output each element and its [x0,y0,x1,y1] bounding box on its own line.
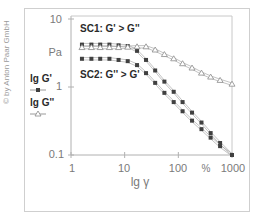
rheology-chart: 10 1 0.1 Pa 1 10 100 1000 % lg γ SC1: G'… [0,0,265,219]
data-point-filled [172,100,176,104]
legend-filled-square-icon [36,88,40,92]
x-unit: % [202,163,211,174]
data-series [79,43,235,157]
y-tick-10: 10 [50,13,62,25]
legend-g-prime-label: lg G' [30,73,52,84]
data-point-filled [181,100,185,104]
data-point-filled [117,58,121,62]
data-point-filled [209,136,213,140]
data-point-filled [162,80,166,84]
data-point-filled [80,57,84,61]
data-point-filled [107,57,111,61]
data-point-open [229,81,235,86]
data-point-filled [162,91,166,95]
axis-ticks [68,19,232,158]
data-point-filled [172,90,176,94]
data-point-open [88,45,94,50]
data-point-filled [230,153,234,157]
data-point-filled [153,68,157,72]
data-point-filled [190,111,194,115]
data-point-filled [181,109,185,113]
data-point-filled [153,81,157,85]
data-point-filled [89,57,93,61]
data-point-filled [144,58,148,62]
data-point-open [116,45,122,50]
data-point-open [106,45,112,50]
y-unit: Pa [49,46,63,58]
data-point-filled [218,144,222,148]
data-point-open [134,44,140,49]
x-tick-100: 100 [169,162,187,174]
data-point-filled [209,131,213,135]
data-point-filled [190,119,194,123]
y-tick-1: 1 [56,80,62,92]
x-tick-1000: 1000 [221,162,245,174]
annotation-sc1: SC1: G' > G'' [80,23,140,34]
data-point-filled [199,127,203,131]
data-point-filled [135,63,139,67]
data-point-open [97,45,103,50]
data-point-filled [144,71,148,75]
x-axis-label: lg γ [131,175,150,189]
data-point-open [79,45,85,50]
x-tick-1: 1 [69,162,75,174]
data-point-filled [135,49,139,53]
annotation-sc2: SC2: G'' > G' [80,69,140,80]
data-point-filled [98,57,102,61]
data-point-filled [126,59,130,63]
legend: lg G' lg G'' [30,73,54,116]
data-point-filled [199,121,203,125]
x-tick-10: 10 [118,162,130,174]
legend-g-double-prime-label: lg G'' [30,97,54,108]
y-tick-0-1: 0.1 [49,148,64,160]
